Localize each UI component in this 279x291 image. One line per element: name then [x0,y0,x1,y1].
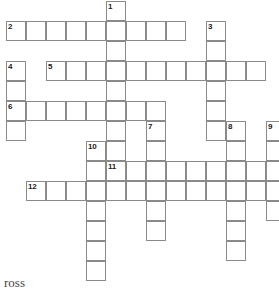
clue-number-8: 8 [228,122,232,131]
grid-cell[interactable] [126,181,146,201]
grid-cell[interactable] [26,101,46,121]
grid-cell[interactable] [266,141,279,161]
grid-cell[interactable]: 2 [6,21,26,41]
grid-cell[interactable] [206,181,226,201]
grid-cell[interactable] [106,61,126,81]
grid-cell[interactable]: 10 [86,141,106,161]
grid-cell[interactable]: 5 [46,61,66,81]
grid-cell[interactable] [146,221,166,241]
grid-cell[interactable] [226,61,246,81]
grid-cell[interactable] [206,61,226,81]
across-heading-label: ross [4,276,64,291]
grid-cell[interactable]: 8 [226,121,246,141]
grid-cell[interactable] [166,61,186,81]
grid-cell[interactable] [186,161,206,181]
grid-cell[interactable] [226,201,246,221]
clue-number-5: 5 [48,62,52,71]
grid-cell[interactable] [86,221,106,241]
grid-cell[interactable] [166,21,186,41]
grid-cell[interactable]: 1 [106,1,126,21]
grid-cell[interactable] [146,101,166,121]
grid-cell[interactable] [106,181,126,201]
clue-number-4: 4 [8,62,12,71]
grid-cell[interactable] [206,81,226,101]
grid-cell[interactable] [66,21,86,41]
grid-cell[interactable]: 3 [206,21,226,41]
grid-cell[interactable] [106,21,126,41]
grid-cell[interactable] [226,141,246,161]
grid-cell[interactable] [86,161,106,181]
clue-number-2: 2 [8,22,12,31]
clue-number-3: 3 [208,22,212,31]
grid-cell[interactable] [66,61,86,81]
clue-number-12: 12 [28,182,37,191]
clue-number-11: 11 [108,162,116,171]
grid-cell[interactable] [186,181,206,201]
grid-cell[interactable]: 12 [26,181,46,201]
grid-cell[interactable] [266,181,279,201]
grid-cell[interactable] [66,101,86,121]
grid-cell[interactable] [146,61,166,81]
grid-cell[interactable] [266,201,279,221]
crossword-grid[interactable]: 123456789101112 [0,0,279,291]
clue-number-10: 10 [88,142,97,151]
grid-cell[interactable] [226,221,246,241]
grid-cell[interactable] [166,161,186,181]
grid-cell[interactable] [6,81,26,101]
grid-cell[interactable] [206,101,226,121]
grid-cell[interactable] [166,181,186,201]
grid-cell[interactable] [86,181,106,201]
grid-cell[interactable] [46,181,66,201]
grid-cell[interactable] [86,61,106,81]
grid-cell[interactable] [246,181,266,201]
grid-cell[interactable] [226,161,246,181]
grid-cell[interactable] [106,121,126,141]
grid-cell[interactable]: 11 [106,161,126,181]
grid-cell[interactable] [146,21,166,41]
grid-cell[interactable] [146,201,166,221]
grid-cell[interactable] [46,21,66,41]
grid-cell[interactable] [26,21,46,41]
grid-cell[interactable] [126,161,146,181]
grid-cell[interactable] [86,101,106,121]
clue-number-7: 7 [148,122,152,131]
grid-cell[interactable] [246,161,266,181]
grid-cell[interactable]: 6 [6,101,26,121]
grid-cell[interactable] [146,141,166,161]
grid-cell[interactable] [186,61,206,81]
grid-cell[interactable]: 9 [266,121,279,141]
grid-cell[interactable] [206,161,226,181]
crossword-puzzle: 123456789101112 ross [0,0,279,291]
grid-cell[interactable] [66,181,86,201]
grid-cell[interactable] [206,41,226,61]
grid-cell[interactable] [86,201,106,221]
grid-cell[interactable] [86,261,106,281]
grid-cell[interactable] [46,101,66,121]
grid-cell[interactable] [6,121,26,141]
grid-cell[interactable] [86,241,106,261]
grid-cell[interactable] [246,61,266,81]
grid-cell[interactable] [106,41,126,61]
grid-cell[interactable] [126,21,146,41]
clue-number-9: 9 [268,122,272,131]
grid-cell[interactable]: 4 [6,61,26,81]
grid-cell[interactable] [86,21,106,41]
grid-cell[interactable] [106,101,126,121]
grid-cell[interactable] [106,81,126,101]
grid-cell[interactable] [126,101,146,121]
grid-cell[interactable] [226,241,246,261]
grid-cell[interactable] [146,161,166,181]
grid-cell[interactable] [266,161,279,181]
grid-cell[interactable] [206,121,226,141]
grid-cell[interactable] [126,61,146,81]
grid-cell[interactable]: 7 [146,121,166,141]
clue-number-1: 1 [108,2,112,11]
grid-cell[interactable] [106,141,126,161]
grid-cell[interactable] [226,181,246,201]
grid-cell[interactable] [146,181,166,201]
clue-number-6: 6 [8,102,12,111]
